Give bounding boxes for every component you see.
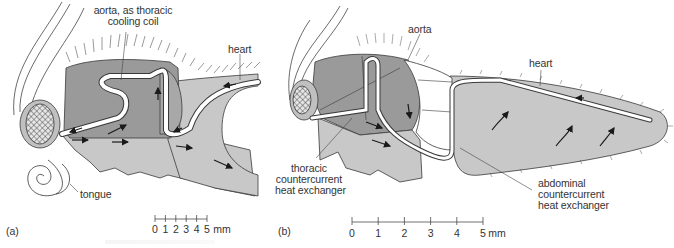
- compound-eye-b: [293, 86, 311, 114]
- label-abdominal-line3: heat exchanger: [538, 200, 609, 211]
- scale-bar-a-line: [155, 215, 207, 222]
- label-thoracic-heat-exchanger: thoracic countercurrent heat exchanger: [275, 163, 343, 196]
- label-heart-b: heart: [529, 58, 552, 69]
- label-aorta-cooling-coil: aorta, as thoracic cooling coil: [92, 5, 174, 27]
- abdomen-b: [450, 76, 667, 175]
- label-tongue: tongue: [80, 189, 112, 200]
- label-thoracic-line3: heat exchanger: [275, 185, 343, 196]
- scale-a-unit: mm: [213, 223, 231, 235]
- caption-fragment: [105, 240, 215, 244]
- scale-a-tick-3: 3: [183, 223, 189, 235]
- bee-circulation-figure: aorta, as thoracic cooling coil heart to…: [0, 0, 674, 248]
- label-heart-a: heart: [228, 44, 251, 55]
- scale-bar-b-line: [352, 217, 483, 225]
- scale-a-tick-4: 4: [194, 223, 200, 235]
- scale-a-tick-2: 2: [173, 223, 179, 235]
- scale-a-tick-0: 0: [152, 223, 158, 235]
- panel-letter-a: (a): [6, 225, 19, 237]
- compound-eye-a: [26, 104, 54, 144]
- scale-a-tick-1: 1: [162, 223, 168, 235]
- label-aorta-b: aorta: [408, 24, 431, 35]
- label-abdominal-heat-exchanger: abdominal countercurrent heat exchanger: [538, 178, 609, 211]
- leader-tongue: [70, 184, 78, 192]
- leader-aorta-b: [408, 34, 420, 60]
- tongue-spiral: [28, 160, 70, 196]
- panel-letter-b: (b): [278, 225, 291, 237]
- scale-a-tick-5: 5: [204, 223, 210, 235]
- scale-b-unit: mm: [488, 227, 506, 239]
- scale-b-tick-5: 5: [480, 227, 486, 239]
- scale-b-tick-1: 1: [375, 227, 381, 239]
- scale-b-tick-4: 4: [454, 227, 460, 239]
- scale-b-tick-0: 0: [349, 227, 355, 239]
- scale-b-tick-3: 3: [428, 227, 434, 239]
- scale-b-tick-2: 2: [401, 227, 407, 239]
- label-aorta-line2: cooling coil: [92, 16, 174, 27]
